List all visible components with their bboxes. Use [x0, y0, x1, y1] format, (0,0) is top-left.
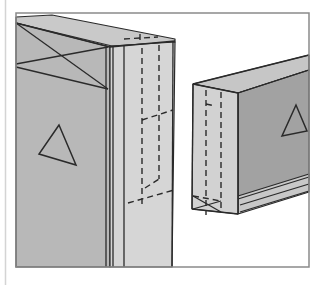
joint-illustration — [0, 0, 327, 285]
left-block-front-face — [16, 23, 110, 267]
left-block-side-face — [110, 42, 175, 267]
right-block-end-face — [192, 84, 238, 214]
left-block-mortise-piece — [16, 15, 175, 267]
right-block-tenon-piece — [192, 55, 309, 215]
